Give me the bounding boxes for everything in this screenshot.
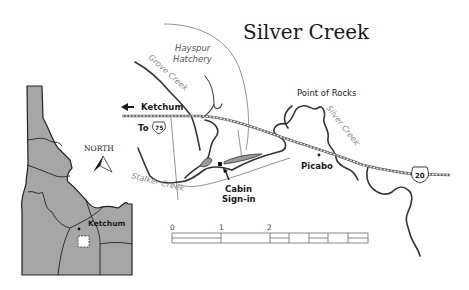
- hatchery-tributary: [202, 76, 222, 118]
- square-marker-icon: [218, 162, 222, 166]
- cabin-label-line2: Sign-in: [222, 194, 256, 204]
- north-label: NORTH: [84, 144, 114, 153]
- cabin-label-line1: Cabin: [225, 184, 252, 194]
- scale-tick-0: 0: [170, 223, 175, 232]
- point-of-rocks-label: Point of Rocks: [297, 88, 357, 98]
- stalker-creek-label: Stalker Creek: [131, 171, 186, 193]
- silver-creek-map: Silver Creek Ketchum To 75 20 Hayspur Ha…: [0, 0, 469, 290]
- drainage-line-2: [238, 130, 242, 160]
- hatchery-label-line1: Hayspur: [175, 43, 211, 53]
- idaho-state-shape: [21, 86, 132, 275]
- scale-tick-2: 2: [267, 223, 272, 232]
- scale-bar: 0 1 2: [170, 223, 368, 243]
- svg-text:20: 20: [415, 172, 425, 180]
- silver-creek-downstream: [367, 166, 420, 256]
- to-label: To: [138, 123, 149, 133]
- pond-1: [200, 158, 212, 167]
- north-arrow: NORTH: [84, 144, 114, 172]
- ketchum-direction-label: Ketchum: [141, 102, 183, 112]
- hatchery-label-line2: Hatchery: [173, 54, 213, 64]
- us-20-shield-icon: 20: [412, 167, 429, 183]
- idaho-inset-map: Ketchum: [21, 86, 132, 275]
- inset-ketchum-label: Ketchum: [88, 219, 125, 228]
- map-title: Silver Creek: [243, 20, 370, 44]
- scale-tick-1: 1: [219, 223, 224, 232]
- ketchum-direction: Ketchum: [121, 102, 183, 112]
- silver-creek-label: Silver Creek: [324, 104, 361, 148]
- dot-marker-icon: [318, 154, 321, 157]
- point-rocks-river: [285, 106, 292, 128]
- center-river-loop: [185, 120, 218, 178]
- picabo-label: Picabo: [301, 161, 333, 171]
- svg-text:75: 75: [155, 124, 163, 131]
- arrow-left-icon: [121, 103, 134, 111]
- ketchum-dot-icon: [78, 228, 81, 231]
- us-75-shield-icon: 75: [153, 122, 166, 134]
- study-area-marker: [78, 236, 89, 247]
